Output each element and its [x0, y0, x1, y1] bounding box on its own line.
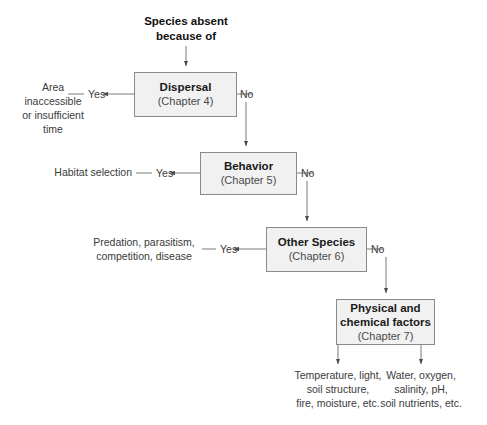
node-dispersal-title: Dispersal: [160, 80, 212, 94]
edge-label-other-yes: Yes: [220, 244, 237, 255]
outcome-physical-right: Water, oxygen, salinity, pH, soil nutrie…: [358, 369, 484, 411]
connector-lines: [0, 0, 487, 425]
node-behavior[interactable]: Behavior (Chapter 5): [200, 152, 297, 195]
node-physical-title: Physical and chemical factors: [340, 301, 431, 329]
edge-label-behavior-yes: Yes: [156, 168, 173, 179]
node-behavior-chapter: (Chapter 5): [221, 174, 277, 187]
node-other-species[interactable]: Other Species (Chapter 6): [266, 227, 367, 272]
node-dispersal[interactable]: Dispersal (Chapter 4): [134, 72, 237, 117]
node-behavior-title: Behavior: [224, 159, 273, 173]
outcome-other-species: Predation, parasitism, competition, dise…: [86, 236, 202, 264]
diagram-title: Species absent because of: [116, 14, 256, 44]
node-other-species-title: Other Species: [278, 235, 355, 249]
node-physical-chapter: (Chapter 7): [358, 330, 414, 343]
edge-label-behavior-no: No: [301, 168, 314, 179]
outcome-dispersal: Area inaccessible or insufficient time: [8, 81, 98, 136]
node-dispersal-chapter: (Chapter 4): [158, 95, 214, 108]
edge-label-dispersal-no: No: [240, 89, 253, 100]
node-other-species-chapter: (Chapter 6): [289, 250, 345, 263]
edge-label-other-no: No: [371, 244, 384, 255]
flowchart-diagram: Species absent because of Dispersal (Cha…: [0, 0, 487, 425]
node-physical-chemical-factors[interactable]: Physical and chemical factors (Chapter 7…: [336, 299, 435, 345]
outcome-behavior: Habitat selection: [36, 166, 132, 180]
